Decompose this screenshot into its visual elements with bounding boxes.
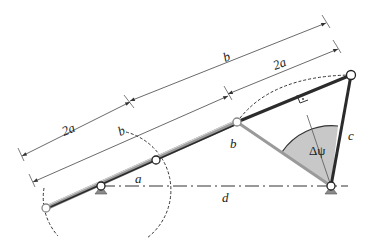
label-ground-d: d <box>222 190 229 205</box>
coupler-link <box>237 75 351 122</box>
joint-B <box>233 118 241 126</box>
label-angle-delta-psi: Δψ <box>309 143 326 158</box>
label-crank-a: a <box>135 171 142 186</box>
joint-A <box>152 156 160 164</box>
label-rocker-c: c <box>348 128 354 143</box>
linkage-diagram: b 2a 2a b a b c d Δψ <box>0 0 370 242</box>
label-dim-left-b: b <box>115 122 127 139</box>
label-dim-top-b: b <box>221 48 233 65</box>
label-coupler-b: b <box>230 136 237 151</box>
dim-line-left-2a <box>22 102 130 156</box>
coupler-extension <box>46 124 237 209</box>
joint-C <box>347 71 356 80</box>
joint-B0 <box>327 182 335 190</box>
joint-A0 <box>97 182 105 190</box>
crank-circle-arc-right <box>126 132 171 238</box>
joint-E <box>42 204 50 212</box>
